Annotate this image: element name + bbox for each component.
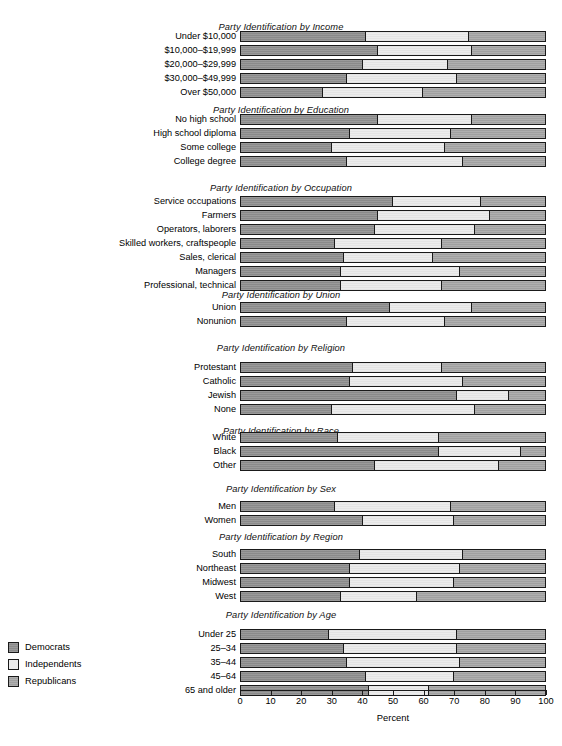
bar-segment-democrats (241, 46, 378, 55)
axis-tick (393, 690, 394, 695)
axis-tick (515, 690, 516, 695)
legend-label: Republicans (25, 676, 76, 687)
legend-label: Independents (25, 659, 81, 670)
bar-row: Nonunion (0, 316, 562, 327)
bar-segment-independents (363, 60, 448, 69)
bar-row-label: Northeast (196, 563, 236, 574)
bar-segment-democrats (241, 143, 332, 152)
bar-segment-republicans (463, 550, 545, 559)
axis-tick-label: 10 (256, 696, 286, 706)
bar-segment-independents (375, 225, 475, 234)
bar-row: Union (0, 302, 562, 313)
bar-segment-independents (332, 143, 444, 152)
bar-segment-independents (347, 658, 459, 667)
bar-segment-democrats (241, 88, 323, 97)
bar-segment-democrats (241, 303, 390, 312)
stacked-bar (240, 45, 546, 56)
bar-segment-republicans (509, 391, 545, 400)
axis-tick (424, 690, 425, 695)
bar-segment-republicans (457, 644, 545, 653)
stacked-bar (240, 404, 546, 415)
bar-segment-republicans (445, 317, 545, 326)
bar-row: Other (0, 460, 562, 471)
axis-tick-label: 80 (470, 696, 500, 706)
bar-row: Farmers (0, 210, 562, 221)
stacked-bar (240, 31, 546, 42)
stacked-bar (240, 87, 546, 98)
bar-segment-democrats (241, 32, 366, 41)
bar-segment-independents (375, 461, 500, 470)
legend-item: Republicans (8, 674, 81, 688)
stacked-bar (240, 224, 546, 235)
stacked-bar (240, 549, 546, 560)
stacked-bar (240, 671, 546, 682)
bar-segment-democrats (241, 377, 350, 386)
bar-segment-independents (390, 303, 472, 312)
bar-row: $20,000–$29,999 (0, 59, 562, 70)
axis-tick (485, 690, 486, 695)
bar-row-label: Under $10,000 (175, 31, 236, 42)
bar-row-label: No high school (175, 114, 236, 125)
bar-row-label: Some college (180, 142, 236, 153)
bar-row-label: Protestant (194, 362, 236, 373)
bar-segment-democrats (241, 516, 363, 525)
bar-segment-democrats (241, 502, 335, 511)
bar-segment-independents (350, 129, 450, 138)
stacked-bar (240, 446, 546, 457)
bar-segment-democrats (241, 281, 341, 290)
bar-segment-democrats (241, 129, 350, 138)
axis-tick-label: 40 (347, 696, 377, 706)
axis-tick (454, 690, 455, 695)
bar-segment-independents (341, 281, 441, 290)
bar-segment-republicans (457, 630, 545, 639)
bar-row-label: $30,000–$49,999 (164, 73, 236, 84)
bar-segment-independents (439, 447, 521, 456)
bar-segment-republicans (472, 115, 545, 124)
bar-row-label: Service occupations (154, 196, 236, 207)
bar-row: Women (0, 515, 562, 526)
bar-row: Operators, laborers (0, 224, 562, 235)
bar-segment-independents (353, 363, 441, 372)
panel-title: Party Identification by Religion (0, 343, 562, 353)
bar-segment-independents (323, 88, 423, 97)
bar-row-label: South (212, 549, 236, 560)
stacked-bar (240, 362, 546, 373)
stacked-bar (240, 238, 546, 249)
bar-segment-republicans (448, 60, 545, 69)
bar-row-label: $10,000–$19,999 (164, 45, 236, 56)
panel-title: Party Identification by Region (0, 532, 562, 542)
bar-segment-independents (457, 391, 509, 400)
bar-segment-democrats (241, 363, 353, 372)
bar-row: 25–34 (0, 643, 562, 654)
bar-row-label: Men (218, 501, 236, 512)
bar-row: White (0, 432, 562, 443)
party-identification-chart: Party Identification by IncomeUnder $10,… (0, 0, 562, 746)
axis-tick-label: 100 (531, 696, 561, 706)
bar-segment-independents (378, 115, 472, 124)
bar-segment-republicans (472, 303, 545, 312)
bar-row: Protestant (0, 362, 562, 373)
bar-segment-democrats (241, 239, 335, 248)
axis-tick (271, 690, 272, 695)
bar-row-label: West (215, 591, 236, 602)
bar-row: Under $10,000 (0, 31, 562, 42)
bar-segment-republicans (445, 143, 545, 152)
bar-row: Catholic (0, 376, 562, 387)
bar-segment-republicans (439, 433, 545, 442)
axis-tick (546, 690, 547, 695)
bar-segment-democrats (241, 225, 375, 234)
panel-title: Party Identification by Age (0, 610, 562, 620)
stacked-bar (240, 563, 546, 574)
stacked-bar (240, 59, 546, 70)
bar-segment-republicans (423, 88, 545, 97)
bar-row: Over $50,000 (0, 87, 562, 98)
stacked-bar (240, 142, 546, 153)
bar-segment-republicans (442, 239, 545, 248)
bar-row: Service occupations (0, 196, 562, 207)
bar-row: None (0, 404, 562, 415)
bar-row: $30,000–$49,999 (0, 73, 562, 84)
bar-row-label: Sales, clerical (179, 252, 236, 263)
bar-row-label: Under 25 (198, 629, 236, 640)
axis-tick (332, 690, 333, 695)
bar-segment-independents (329, 630, 457, 639)
